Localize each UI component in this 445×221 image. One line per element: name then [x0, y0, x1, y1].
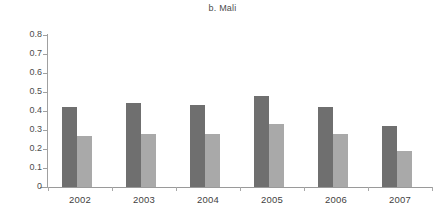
x-axis-label-2006: 2006: [304, 194, 368, 205]
x-axis-label-2005: 2005: [240, 194, 304, 205]
y-axis-tick-label: 0.1: [29, 162, 42, 172]
bar-series-2-2006: [333, 134, 348, 187]
x-axis-tick-mark: [304, 187, 305, 191]
bar-series-2-2002: [77, 136, 92, 187]
chart-title: b. Mali: [0, 3, 445, 13]
x-axis-tick-mark: [176, 187, 177, 191]
x-axis-label-2004: 2004: [176, 194, 240, 205]
y-axis-tick-label: 0.3: [29, 124, 42, 134]
x-axis-tick-mark: [240, 187, 241, 191]
y-axis-tick-label: 0.2: [29, 143, 42, 153]
bar-series-1-2004: [190, 105, 205, 187]
bar-chart: b. Mali 00.10.20.30.40.50.60.70.8 200220…: [0, 0, 445, 221]
x-axis-tick-mark: [432, 187, 433, 191]
bar-series-1-2003: [126, 103, 141, 187]
bar-series-1-2006: [318, 107, 333, 187]
y-axis-tick-label: 0.6: [29, 67, 42, 77]
x-axis-tick-mark: [48, 187, 49, 191]
x-axis-tick-mark: [112, 187, 113, 191]
x-axis-line: [40, 187, 432, 188]
bar-series-2-2007: [397, 151, 412, 187]
bar-series-1-2007: [382, 126, 397, 187]
bar-series-2-2005: [269, 124, 284, 187]
bar-series-2-2003: [141, 134, 156, 187]
y-axis-tick-label: 0: [37, 181, 42, 191]
y-axis-tick-label: 0.4: [29, 105, 42, 115]
x-axis-label-2007: 2007: [368, 194, 432, 205]
y-axis-tick-label: 0.8: [29, 29, 42, 39]
x-axis-label-2003: 2003: [112, 194, 176, 205]
y-axis-tick-label: 0.5: [29, 86, 42, 96]
plot-area: [48, 35, 432, 187]
x-axis-tick-mark: [368, 187, 369, 191]
bar-series-2-2004: [205, 134, 220, 187]
y-axis-tick-label: 0.7: [29, 48, 42, 58]
x-axis-label-2002: 2002: [48, 194, 112, 205]
bar-series-1-2005: [254, 96, 269, 187]
bar-series-1-2002: [62, 107, 77, 187]
